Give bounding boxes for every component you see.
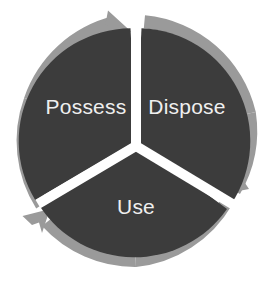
segment-label-possess: Possess [46,95,127,118]
cycle-diagram-canvas: Possess Dispose Use [0,0,273,284]
cycle-diagram: Possess Dispose Use [0,0,273,284]
segment-label-dispose: Dispose [148,95,225,118]
segment-label-use: Use [117,195,155,218]
